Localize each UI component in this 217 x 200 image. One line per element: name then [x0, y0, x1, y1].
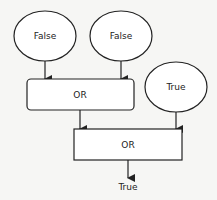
gate-label: OR	[73, 90, 86, 100]
or-gate-1: OR	[27, 79, 134, 110]
input-node-false-1: False	[14, 11, 76, 61]
input-node-false-2: False	[90, 11, 152, 61]
input-label: False	[110, 31, 133, 41]
input-label: False	[34, 31, 57, 41]
gate-label: OR	[121, 140, 134, 150]
input-label: True	[165, 82, 186, 92]
output-label: True	[117, 182, 138, 192]
input-node-true: True	[145, 62, 207, 112]
logic-diagram: False False True OR OR True	[0, 0, 217, 200]
or-gate-2: OR	[74, 129, 182, 160]
